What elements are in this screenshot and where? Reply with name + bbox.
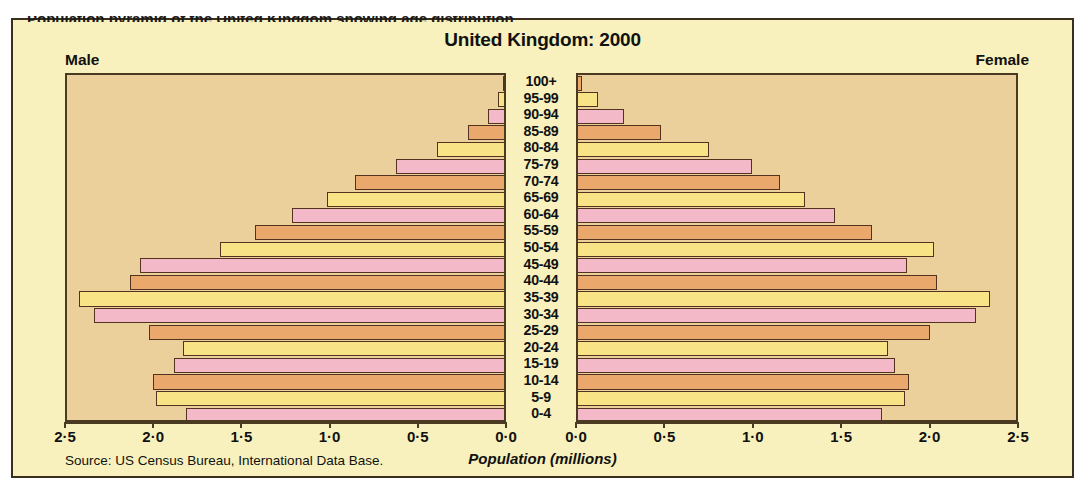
- male-bar-row: [67, 75, 504, 92]
- male-bar-row: [67, 308, 504, 325]
- female-tick-label-0·0: 0·0: [546, 428, 606, 445]
- female-bar-75-79: [577, 159, 752, 174]
- age-group-label: 60-64: [506, 206, 576, 223]
- female-bar-row: [578, 175, 1016, 192]
- male-bar-row: [67, 291, 504, 308]
- female-bar-row: [578, 357, 1016, 374]
- age-group-label: 25-29: [506, 322, 576, 339]
- male-bar-85-89: [468, 125, 505, 140]
- female-bar-row: [578, 75, 1016, 92]
- female-bar-10-14: [577, 374, 909, 389]
- female-bar-row: [578, 125, 1016, 142]
- female-bar-60-64: [577, 208, 835, 223]
- female-bar-row: [578, 374, 1016, 391]
- female-bar-row: [578, 92, 1016, 109]
- cut-off-header-text: Population pyramid of the United Kingdom…: [27, 16, 727, 22]
- male-bar-0-4: [186, 408, 505, 422]
- age-group-labels: 100+95-9990-9485-8980-8475-7970-7465-696…: [506, 73, 576, 422]
- age-group-label: 55-59: [506, 222, 576, 239]
- male-bar-40-44: [130, 275, 506, 290]
- age-group-label: 10-14: [506, 372, 576, 389]
- male-bar-row: [67, 258, 504, 275]
- female-bar-row: [578, 141, 1016, 158]
- male-tick-label-2·5: 2·5: [35, 428, 95, 445]
- male-bar-50-54: [220, 242, 506, 257]
- male-bar-55-59: [255, 225, 505, 240]
- male-bar-row: [67, 224, 504, 241]
- age-group-label: 35-39: [506, 289, 576, 306]
- female-bar-65-69: [577, 192, 805, 207]
- female-bar-30-34: [577, 308, 977, 323]
- female-bar-90-94: [577, 109, 625, 124]
- male-bar-30-34: [94, 308, 505, 323]
- age-group-label: 15-19: [506, 355, 576, 372]
- female-bar-80-84: [577, 142, 710, 157]
- female-bar-20-24: [577, 341, 888, 356]
- age-group-label: 95-99: [506, 90, 576, 107]
- male-bar-row: [67, 341, 504, 358]
- male-bar-65-69: [327, 192, 505, 207]
- age-group-label: 40-44: [506, 272, 576, 289]
- female-bar-35-39: [577, 291, 991, 306]
- female-bar-55-59: [577, 225, 872, 240]
- female-bar-row: [578, 341, 1016, 358]
- female-bar-15-19: [577, 358, 895, 373]
- age-group-label: 85-89: [506, 123, 576, 140]
- male-tick-label-2·0: 2·0: [123, 428, 183, 445]
- male-tick-label-0·5: 0·5: [388, 428, 448, 445]
- male-bar-rows: [67, 75, 504, 420]
- female-bar-row: [578, 274, 1016, 291]
- male-bar-95-99: [498, 92, 505, 107]
- male-side-label: Male: [65, 51, 99, 69]
- male-bar-15-19: [174, 358, 506, 373]
- male-bar-row: [67, 175, 504, 192]
- male-axis-line: [65, 422, 506, 424]
- male-bar-row: [67, 374, 504, 391]
- female-bar-row: [578, 241, 1016, 258]
- male-bar-row: [67, 241, 504, 258]
- age-group-label: 75-79: [506, 156, 576, 173]
- age-group-label: 5-9: [506, 389, 576, 406]
- female-bar-row: [578, 308, 1016, 325]
- male-bar-60-64: [292, 208, 505, 223]
- female-tick-label-1·5: 1·5: [811, 428, 871, 445]
- female-tick-label-0·5: 0·5: [634, 428, 694, 445]
- age-group-label: 30-34: [506, 306, 576, 323]
- age-group-label: 0-4: [506, 405, 576, 422]
- male-bar-row: [67, 125, 504, 142]
- female-bar-row: [578, 258, 1016, 275]
- male-bar-5-9: [156, 391, 505, 406]
- male-bar-row: [67, 108, 504, 125]
- female-bar-row: [578, 191, 1016, 208]
- age-group-label: 20-24: [506, 339, 576, 356]
- female-bar-70-74: [577, 175, 780, 190]
- male-tick-label-1·0: 1·0: [300, 428, 360, 445]
- age-group-label: 90-94: [506, 106, 576, 123]
- female-bar-50-54: [577, 242, 934, 257]
- age-group-label: 80-84: [506, 139, 576, 156]
- female-side-label: Female: [976, 51, 1029, 69]
- male-tick-label-1·5: 1·5: [211, 428, 271, 445]
- female-bar-rows: [578, 75, 1016, 420]
- age-group-label: 45-49: [506, 256, 576, 273]
- female-bar-40-44: [577, 275, 938, 290]
- male-bar-row: [67, 357, 504, 374]
- female-tick-label-2·5: 2·5: [988, 428, 1048, 445]
- female-bar-row: [578, 108, 1016, 125]
- age-group-label: 50-54: [506, 239, 576, 256]
- female-tick-label-2·0: 2·0: [900, 428, 960, 445]
- female-bar-row: [578, 158, 1016, 175]
- male-tick-label-0·0: 0·0: [476, 428, 536, 445]
- male-bar-25-29: [149, 325, 505, 340]
- male-bar-row: [67, 141, 504, 158]
- male-bar-20-24: [183, 341, 506, 356]
- female-bar-row: [578, 291, 1016, 308]
- male-bar-row: [67, 92, 504, 109]
- male-bar-35-39: [79, 291, 506, 306]
- male-bar-row: [67, 274, 504, 291]
- age-group-label: 65-69: [506, 189, 576, 206]
- female-plot-panel: [576, 73, 1018, 422]
- female-axis-line: [576, 422, 1018, 424]
- page-title: United Kingdom: 2000: [13, 29, 1072, 51]
- female-bar-85-89: [577, 125, 662, 140]
